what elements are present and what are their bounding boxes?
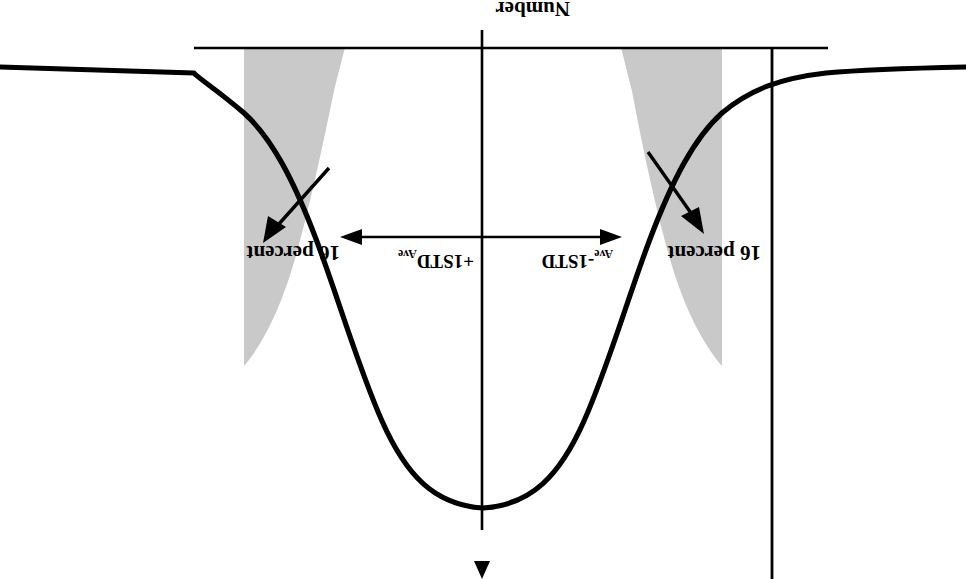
minus-std-suffix: -1STD [541, 251, 594, 272]
left-tail-percent-label: 16 percent [667, 242, 761, 263]
number-axis-arrowhead [474, 561, 490, 579]
distribution-diagram [0, 0, 966, 579]
figure-canvas: 16 percent 16 percent Number Ave-1STD +1… [0, 0, 966, 579]
number-axis-label: Number [495, 0, 570, 19]
figure-rotated-container: 16 percent 16 percent Number Ave-1STD +1… [0, 0, 966, 579]
minus-one-std-label: Ave-1STD [541, 247, 613, 271]
plus-std-prefix: Ave [398, 247, 417, 260]
plus-std-suffix: +1STD [417, 251, 474, 272]
left-tail-shade [621, 48, 722, 366]
tail-pointer-arrows [263, 152, 704, 243]
right-tail-percent-label: 16 percent [246, 242, 340, 263]
plus-one-std-label: +1STDAve [398, 247, 474, 271]
std-span-arrow-head-right [340, 229, 362, 245]
minus-std-prefix: Ave [594, 247, 613, 260]
std-span-arrow-head-left [600, 229, 622, 245]
